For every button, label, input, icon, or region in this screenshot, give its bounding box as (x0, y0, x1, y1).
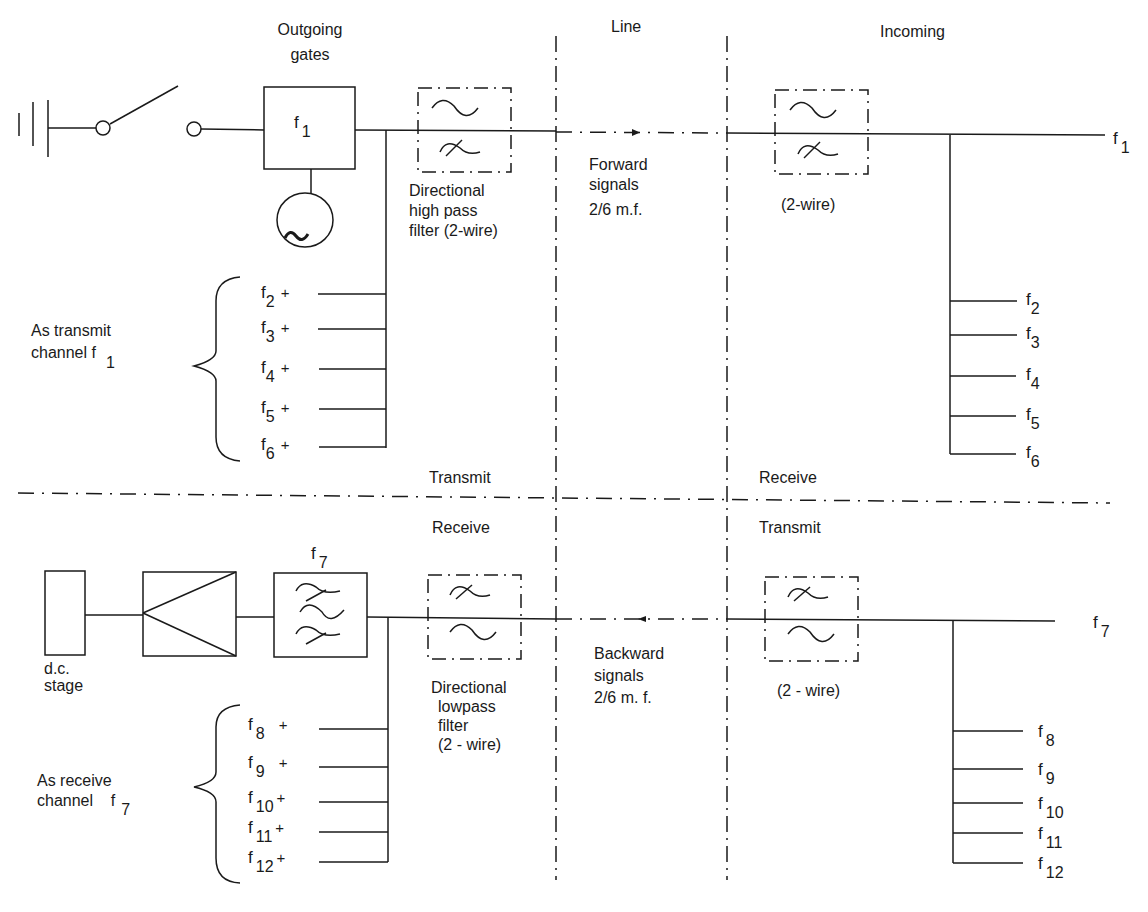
top-line-end-label: f1 (1113, 130, 1130, 147)
backward-signals-label: Backward signals 2/6 m. f. (594, 643, 664, 709)
input-f3: f3+ (261, 319, 289, 336)
outgoing-gates-label: Outgoing gates (260, 17, 360, 67)
f-symbol: f (1093, 613, 1098, 632)
label-line: d.c. (44, 660, 83, 677)
line-forward-dashdot (556, 132, 727, 133)
input-f4: f4+ (261, 359, 289, 376)
receive-upper-label: Receive (759, 468, 817, 487)
output-f10: f10 (1038, 795, 1064, 812)
incoming-region-label: Incoming (880, 22, 945, 41)
ac-generator-icon (277, 193, 333, 247)
forward-signals-label: Forward signals 2/6 m.f. (589, 155, 648, 220)
line-region-label: Line (611, 17, 641, 36)
label-line: signals (589, 175, 648, 195)
circuit-diagram (0, 0, 1148, 912)
amplifier-icon (143, 572, 236, 656)
label-line: As transmit (31, 320, 115, 342)
incoming-filter-caption: (2-wire) (781, 195, 835, 214)
highpass-filter-caption: Directional high pass filter (2-wire) (409, 181, 498, 241)
label-line: lowpass (431, 697, 507, 716)
label-line: 2/6 m. f. (594, 687, 664, 709)
label-line: high pass (409, 201, 498, 221)
input-f9: f9+ (248, 754, 287, 771)
f-subscript: 7 (319, 554, 328, 571)
label-line: channel f (37, 792, 115, 809)
output-f2: f2 (1026, 291, 1040, 308)
f-subscript: 7 (121, 801, 130, 818)
output-f8: f8 (1038, 723, 1055, 740)
label-line: gates (260, 42, 360, 67)
brace-icon (194, 277, 240, 461)
output-f11: f11 (1038, 825, 1062, 842)
dc-stage-box (45, 571, 85, 655)
switch-icon (96, 86, 201, 136)
outgoing-filter-caption: (2 - wire) (777, 681, 840, 700)
f-subscript: 7 (1101, 623, 1110, 640)
label-line: signals (594, 665, 664, 687)
label-line: Backward (594, 643, 664, 665)
label-line: Forward (589, 155, 648, 175)
label-line: Outgoing (260, 17, 360, 42)
output-f5: f5 (1026, 406, 1040, 423)
output-f12: f12 (1038, 855, 1064, 872)
dc-stage-label: d.c. stage (44, 660, 83, 694)
bottom-line-end-label: f7 (1093, 614, 1110, 631)
output-f4: f4 (1026, 366, 1040, 383)
incoming-filter-icon (775, 90, 868, 174)
transmit-upper-label: Transmit (429, 468, 491, 487)
input-f10: f10+ (248, 789, 285, 806)
bandpass-filter-icon (274, 573, 367, 657)
f-subscript: 1 (1121, 139, 1130, 156)
battery-icon (19, 100, 48, 157)
input-f12: f12+ (248, 849, 285, 866)
lowpass-filter-caption: Directional lowpass filter (2 - wire) (431, 678, 507, 754)
input-f2: f2+ (261, 284, 289, 301)
lowpass-filter-icon (428, 575, 521, 659)
label-line: As receive (37, 771, 130, 791)
output-f3: f3 (1026, 325, 1040, 342)
gate-frequency-label: f1 (294, 114, 311, 131)
input-f6: f6+ (261, 436, 289, 453)
transmit-lower-label: Transmit (759, 518, 821, 537)
f-subscript: 1 (302, 123, 311, 140)
output-f6: f6 (1026, 444, 1040, 461)
receive-channel-label: As receive channel f7 (37, 771, 130, 811)
label-line: filter (431, 716, 507, 735)
brace-icon (194, 705, 240, 883)
transmit-channel-label: As transmit channel f1 (31, 320, 115, 364)
label-line: channel f (31, 344, 96, 361)
f-symbol: f (311, 544, 316, 563)
output-f9: f9 (1038, 761, 1055, 778)
f-symbol: f (1113, 129, 1118, 148)
input-f8: f8+ (248, 716, 287, 733)
input-f5: f5+ (261, 399, 289, 416)
label-line: 2/6 m.f. (589, 200, 648, 220)
backward-arrow-icon (638, 616, 646, 622)
label-line: Directional (409, 181, 498, 201)
bandpass-frequency-label: f7 (311, 545, 328, 562)
label-line: filter (2-wire) (409, 221, 498, 241)
label-line: stage (44, 677, 83, 694)
f-subscript: 1 (106, 354, 115, 371)
f-symbol: f (294, 113, 299, 132)
label-line: Directional (431, 678, 507, 697)
label-line: (2 - wire) (431, 735, 507, 754)
forward-arrow-icon (632, 129, 640, 136)
input-f11: f11+ (248, 819, 284, 836)
receive-lower-label: Receive (432, 518, 490, 537)
transmit-receive-divider (18, 493, 1110, 503)
